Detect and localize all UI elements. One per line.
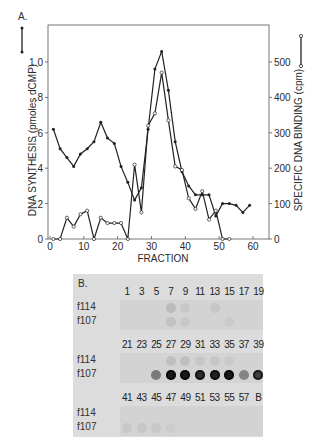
- point-dna-synthesis: [79, 153, 82, 156]
- blot-dot: [239, 370, 249, 380]
- fraction-column-label: 1: [119, 286, 135, 297]
- point-dna-synthesis: [228, 202, 231, 205]
- point-dna-synthesis: [167, 89, 170, 92]
- fraction-column-label: 39: [250, 339, 266, 350]
- probe-row-label: f107: [77, 421, 96, 432]
- probe-row-label: f114: [77, 301, 96, 312]
- point-dna-binding: [201, 190, 204, 193]
- blot-dot: [210, 356, 220, 366]
- x-tick-label: 0: [47, 241, 53, 252]
- point-dna-synthesis: [52, 128, 55, 131]
- point-dna-binding: [79, 213, 82, 216]
- blot-strip: [120, 300, 263, 330]
- y-right-tick-label: 200: [274, 163, 291, 174]
- point-dna-synthesis: [133, 199, 136, 202]
- y-axis-right: 0100200300400500: [269, 57, 291, 245]
- point-dna-binding: [140, 211, 143, 214]
- blot-dot: [122, 423, 132, 433]
- x-axis-label: FRACTION: [137, 253, 188, 264]
- fraction-column-label: 31: [192, 339, 208, 350]
- panel-a-chart: A. 0.2.4.6.81.0 0100200300400500 0102030…: [0, 0, 322, 270]
- point-dna-binding: [106, 221, 109, 224]
- fraction-column-label: B: [250, 392, 266, 403]
- point-dna-synthesis: [194, 193, 197, 196]
- blot-dot: [210, 303, 220, 313]
- fraction-column-label: 37: [236, 339, 252, 350]
- point-dna-binding: [194, 207, 197, 210]
- fraction-column-label: 57: [236, 392, 252, 403]
- fraction-column-label: 53: [207, 392, 223, 403]
- fraction-column-label: 29: [177, 339, 193, 350]
- point-dna-binding: [167, 119, 170, 122]
- point-dna-synthesis: [99, 121, 102, 124]
- probe-row-label: f107: [77, 368, 96, 379]
- point-dna-binding: [207, 218, 210, 221]
- y-left-tick-label: 0: [37, 234, 43, 245]
- point-dna-binding: [86, 209, 89, 212]
- point-dna-binding: [99, 216, 102, 219]
- point-dna-binding: [113, 221, 116, 224]
- probe-row-label: f107: [77, 315, 96, 326]
- point-dna-binding: [214, 209, 217, 212]
- fraction-column-label: 41: [119, 392, 135, 403]
- fraction-column-label: 43: [134, 392, 150, 403]
- point-dna-synthesis: [113, 142, 116, 145]
- point-dna-synthesis: [140, 186, 143, 189]
- blot-dot: [166, 356, 176, 366]
- x-tick-label: 60: [247, 241, 259, 252]
- point-dna-synthesis: [248, 204, 251, 207]
- point-dna-binding: [72, 225, 75, 228]
- fraction-column-label: 47: [163, 392, 179, 403]
- series-dna-synthesis-line: [53, 51, 249, 216]
- point-dna-binding: [174, 165, 177, 168]
- blot-dot: [166, 317, 176, 327]
- point-dna-synthesis: [235, 204, 238, 207]
- panel-a-label: A.: [18, 11, 27, 22]
- y-right-tick-label: 300: [274, 128, 291, 139]
- point-dna-synthesis: [153, 68, 156, 71]
- panel-b-dot-blot: B. 135791113151719f114f10721232527293133…: [73, 274, 263, 437]
- plot-frame: [48, 25, 269, 239]
- blot-dot: [195, 370, 205, 380]
- point-dna-binding: [153, 112, 156, 115]
- blot-dot: [210, 370, 220, 380]
- point-dna-synthesis: [72, 165, 75, 168]
- fraction-column-label: 13: [207, 286, 223, 297]
- fraction-column-label: 15: [221, 286, 237, 297]
- y-right-tick-label: 400: [274, 92, 291, 103]
- fraction-column-label: 33: [207, 339, 223, 350]
- fraction-column-label: 7: [163, 286, 179, 297]
- series-layer: [52, 50, 251, 241]
- fraction-column-label: 45: [148, 392, 164, 403]
- fraction-column-label: 21: [119, 339, 135, 350]
- fraction-column-label: 51: [192, 392, 208, 403]
- point-dna-binding: [126, 237, 129, 240]
- fraction-column-label: 23: [134, 339, 150, 350]
- blot-dot: [166, 370, 176, 380]
- point-dna-synthesis: [92, 140, 95, 143]
- fraction-column-label: 11: [192, 286, 208, 297]
- y-right-tick-label: 500: [274, 57, 291, 68]
- point-dna-binding: [59, 237, 62, 240]
- point-dna-binding: [221, 237, 224, 240]
- point-dna-synthesis: [120, 165, 123, 168]
- x-tick-label: 10: [78, 241, 90, 252]
- point-dna-binding: [65, 216, 68, 219]
- point-dna-synthesis: [174, 140, 177, 143]
- probe-row-label: f114: [77, 407, 96, 418]
- probe-row-label: f114: [77, 354, 96, 365]
- x-tick-label: 30: [146, 241, 158, 252]
- x-tick-label: 40: [180, 241, 192, 252]
- point-dna-binding: [187, 197, 190, 200]
- panel-b-label: B.: [78, 278, 87, 289]
- point-dna-synthesis: [187, 184, 190, 187]
- point-dna-binding: [147, 124, 150, 127]
- blot-dot: [137, 423, 147, 433]
- fraction-column-label: 55: [221, 392, 237, 403]
- fraction-column-label: 25: [148, 339, 164, 350]
- y-right-tick-label: 0: [274, 234, 280, 245]
- legend-open-circle-icon: [299, 34, 302, 67]
- point-dna-binding: [160, 71, 163, 74]
- x-tick-label: 50: [214, 241, 226, 252]
- fraction-column-label: 35: [221, 339, 237, 350]
